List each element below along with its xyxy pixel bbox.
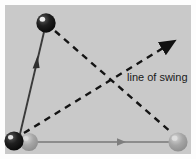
target-gray-ball — [168, 132, 187, 151]
pivot-dark-ball — [4, 131, 23, 150]
struck-gray-ball-highlight — [23, 136, 28, 141]
ball-travel-arrowhead — [117, 138, 126, 146]
target-gray-ball-highlight — [172, 136, 178, 141]
line-of-swing-label: line of swing — [127, 71, 188, 84]
raised-dark-ball — [36, 13, 55, 32]
pendulum-swing-diagram: line of swing — [0, 0, 196, 159]
raised-dark-ball-highlight — [40, 17, 46, 22]
pivot-dark-ball-highlight — [8, 135, 13, 140]
pendulum-rod — [20, 32, 44, 134]
line-of-swing-arrow — [24, 45, 168, 133]
